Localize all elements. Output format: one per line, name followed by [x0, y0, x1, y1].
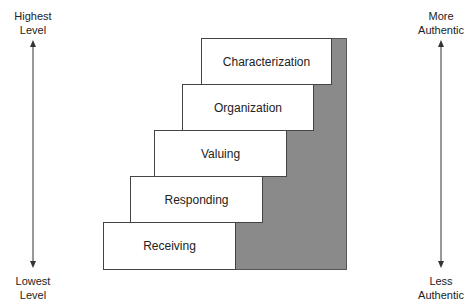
label-line: Level: [0, 23, 73, 37]
axis-arrows: [0, 0, 474, 306]
left-top-label: Highest Level: [0, 9, 73, 37]
label-line: Less: [401, 274, 474, 288]
label-line: Authentic: [401, 23, 474, 37]
label-line: Highest: [0, 9, 73, 23]
arrow-up-icon: [438, 40, 444, 47]
arrow-up-icon: [30, 40, 36, 47]
label-line: Level: [0, 288, 73, 302]
arrow-down-icon: [30, 261, 36, 268]
right-top-label: More Authentic: [401, 9, 474, 37]
label-line: Lowest: [0, 274, 73, 288]
right-bottom-label: Less Authentic: [401, 274, 474, 302]
arrow-down-icon: [438, 261, 444, 268]
left-bottom-label: Lowest Level: [0, 274, 73, 302]
label-line: Authentic: [401, 288, 474, 302]
label-line: More: [401, 9, 474, 23]
